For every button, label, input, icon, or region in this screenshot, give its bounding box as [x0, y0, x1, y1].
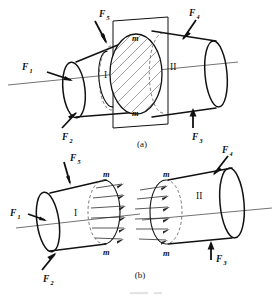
- force-f4-label-b: F: [221, 145, 229, 155]
- force-f3-label-a: F: [191, 132, 199, 142]
- force-f5-label-a: F: [98, 9, 106, 19]
- force-f4-label-a: F: [188, 8, 196, 18]
- free-body-segment-two: m m II F 4 F 3: [135, 145, 272, 266]
- internal-force-arrows-left: [91, 184, 126, 244]
- force-f5-b: F 5: [64, 153, 81, 185]
- force-f2-subscript-a: 2: [69, 137, 73, 144]
- force-f3-a: F 3: [190, 108, 203, 144]
- panel-a-group: F 5 F 4 F 1 F 2 F 3: [8, 8, 238, 149]
- force-f1-a: F 1: [21, 62, 73, 81]
- force-f4-subscript-a: 4: [196, 13, 200, 20]
- panel-b-group: m m I F 5 F 1 F 2: [9, 145, 272, 286]
- free-body-segment-one: m m I F 5 F 1 F 2: [9, 153, 140, 286]
- caption-panel-b: (b): [135, 270, 146, 280]
- force-f1-label-a: F: [21, 62, 29, 72]
- caption-panel-a: (a): [137, 139, 147, 149]
- force-f2-b: F 2: [42, 253, 56, 286]
- segment-two-label-b: II: [196, 191, 202, 201]
- force-f1-subscript-b: 1: [18, 213, 21, 220]
- force-f5-subscript-a: 5: [107, 14, 110, 21]
- force-f3-subscript-b: 3: [223, 259, 227, 266]
- section-label-m-bottom-b-right: m: [163, 248, 170, 258]
- force-f1-label-b: F: [9, 208, 17, 218]
- section-label-m-top-b-right: m: [163, 169, 170, 179]
- segment-one-label-a: I: [104, 70, 107, 80]
- force-f5-subscript-b: 5: [78, 158, 81, 165]
- force-f2-label-a: F: [61, 132, 69, 142]
- force-f4-subscript-b: 4: [229, 150, 233, 157]
- segment-two-label-a: II: [170, 62, 176, 72]
- force-f1-subscript-a: 1: [30, 67, 33, 74]
- section-label-m-top-b-left: m: [103, 169, 110, 179]
- force-f4-b: F 4: [213, 145, 233, 176]
- force-f5-label-b: F: [69, 153, 77, 163]
- cropped-figure-number-fragment: [130, 292, 162, 294]
- figure-root: F 5 F 4 F 1 F 2 F 3: [0, 0, 280, 297]
- mechanics-figure: F 5 F 4 F 1 F 2 F 3: [0, 0, 280, 297]
- force-f2-label-b: F: [42, 274, 50, 284]
- section-label-m-top-a: m: [132, 33, 139, 43]
- segment-one-label-b: I: [74, 208, 77, 218]
- force-f4-a: F 4: [182, 8, 200, 40]
- section-label-m-bottom-b-left: m: [103, 247, 110, 257]
- force-f5-a: F 5: [95, 9, 110, 44]
- section-label-m-bottom-a: m: [132, 108, 139, 118]
- force-f2-subscript-b: 2: [50, 279, 54, 286]
- force-f1-b: F 1: [9, 208, 47, 221]
- force-f3-subscript-a: 3: [199, 137, 203, 144]
- force-f3-b: F 3: [208, 241, 227, 266]
- force-f3-label-b: F: [215, 254, 223, 264]
